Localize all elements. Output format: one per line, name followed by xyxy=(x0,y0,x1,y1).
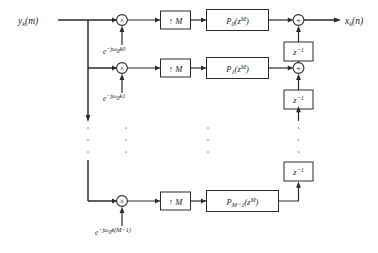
upsampler-label-0: ↑ M xyxy=(169,16,183,26)
ellipsis-column-1 xyxy=(87,127,89,153)
arrowhead-bus-down xyxy=(86,115,91,122)
arrowhead-filt-0 xyxy=(201,18,206,23)
modulator-symbol-2: × xyxy=(120,197,125,206)
exponent-label-1: e−jω0k1 xyxy=(103,92,125,103)
arrowhead-delay1-up xyxy=(296,74,301,80)
filter-label-1: P1(zM) xyxy=(225,63,249,75)
arrowhead-mod-0 xyxy=(120,26,125,32)
exponent-label-2: e−jω0k(M−1) xyxy=(95,226,131,237)
arrowhead-up-2 xyxy=(155,199,160,204)
arrowhead-filt-1 xyxy=(201,66,206,71)
ellipsis-column-3 xyxy=(207,127,209,153)
adder-symbol-1: + xyxy=(296,64,301,73)
output-signal-label: xk(n) xyxy=(344,16,363,27)
upsampler-label-1: ↑ M xyxy=(169,64,183,74)
wire-filt2-to-delay2 xyxy=(279,185,299,201)
arrowhead-output xyxy=(334,18,341,23)
filter-label-0: P0(zM) xyxy=(225,15,249,27)
arrowhead-add-1 xyxy=(288,66,293,71)
input-signal-label: yk(m) xyxy=(17,16,38,27)
ellipsis-column-2 xyxy=(125,127,127,153)
adder-symbol-0: + xyxy=(296,16,301,25)
arrowhead-filt-2 xyxy=(201,199,206,204)
arrowhead-delay0-up xyxy=(296,26,301,32)
arrowhead-into-delay2 xyxy=(296,182,301,188)
arrowhead-up-0 xyxy=(155,18,160,23)
modulator-symbol-0: × xyxy=(120,16,125,25)
arrowhead-add-0 xyxy=(288,18,293,23)
arrowhead-mod-2 xyxy=(120,207,125,213)
arrowhead-mod-1 xyxy=(120,74,125,80)
modulator-symbol-1: × xyxy=(120,64,125,73)
upsampler-label-2: ↑ M xyxy=(169,197,183,207)
arrowhead-up-1 xyxy=(155,66,160,71)
ellipsis-column-4 xyxy=(298,127,300,153)
exponent-label-0: e−jω0k0 xyxy=(103,45,126,56)
polyphase-filter-bank-diagram: yk(m) × e−jω0k0 ↑ M P0(zM) + xk(n) z−1 × xyxy=(0,0,378,253)
